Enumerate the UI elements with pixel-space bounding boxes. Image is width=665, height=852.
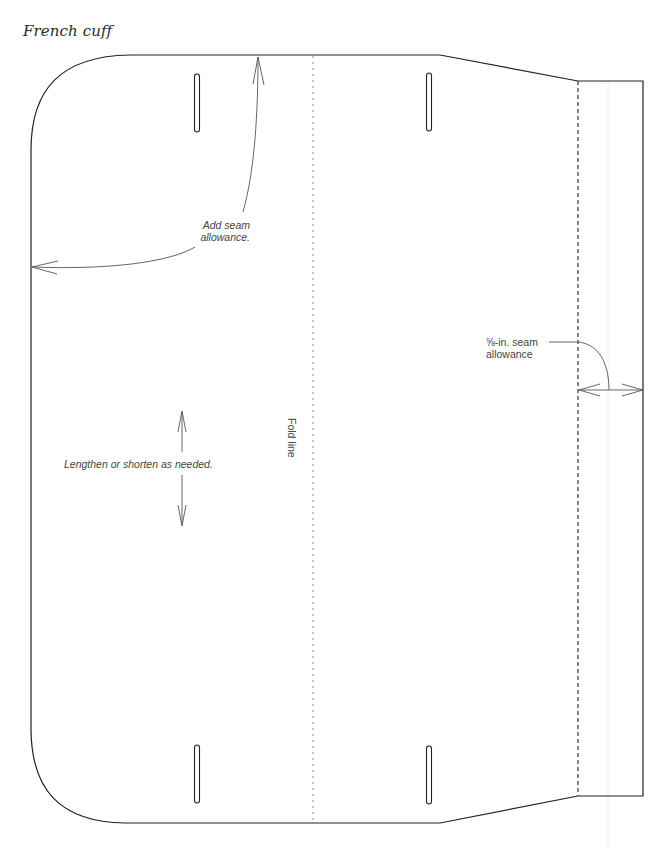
arrow-to-top-edge-icon (243, 57, 264, 212)
add-seam-line2: allowance. (170, 231, 250, 243)
buttonhole-bottom-right (427, 746, 432, 804)
seam-allowance-leader (549, 342, 609, 390)
cuff-outline (31, 55, 643, 823)
add-seam-allowance-label: Add seam allowance. (170, 219, 250, 243)
buttonhole-bottom-left (195, 745, 200, 803)
double-arrow-icon (579, 384, 643, 396)
seam-allowance-label: ⅝-in. seam allowance (486, 336, 556, 360)
lengthen-shorten-label: Lengthen or shorten as needed. (64, 458, 304, 470)
seam-allowance-line2: allowance (486, 348, 556, 360)
add-seam-line1: Add seam (170, 219, 250, 231)
cuff-pattern (0, 0, 665, 852)
fold-line-label: Fold line (286, 418, 298, 478)
buttonhole-top-left (195, 74, 200, 132)
buttonhole-top-right (427, 73, 432, 131)
shorten-down-arrow-icon (178, 475, 186, 526)
seam-allowance-line1: ⅝-in. seam (486, 336, 556, 348)
lengthen-up-arrow-icon (178, 411, 186, 452)
arrow-to-left-edge-icon (32, 247, 195, 274)
